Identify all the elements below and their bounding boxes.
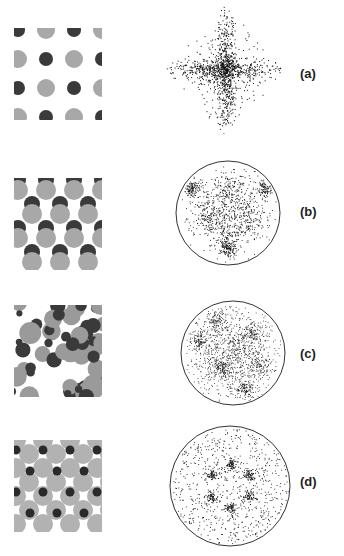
lattice-b-image xyxy=(14,178,102,270)
panel-label-d: (d) xyxy=(300,474,317,489)
panel-b: (b) xyxy=(0,140,344,280)
diffraction-pattern-a xyxy=(166,6,284,134)
lattice-a-image xyxy=(14,28,102,120)
panel-label-a: (a) xyxy=(300,66,316,81)
panel-label-b: (b) xyxy=(300,204,317,219)
diffraction-pattern-d xyxy=(168,424,292,548)
panel-d: (d) xyxy=(0,416,344,556)
lattice-c-image xyxy=(14,305,102,397)
lattice-d-image xyxy=(14,440,102,532)
panel-label-c: (c) xyxy=(300,346,316,361)
panel-a: (a) xyxy=(0,0,344,140)
diffraction-pattern-c xyxy=(179,298,287,408)
diffraction-pattern-b xyxy=(174,158,282,268)
panel-c: (c) xyxy=(0,280,344,420)
